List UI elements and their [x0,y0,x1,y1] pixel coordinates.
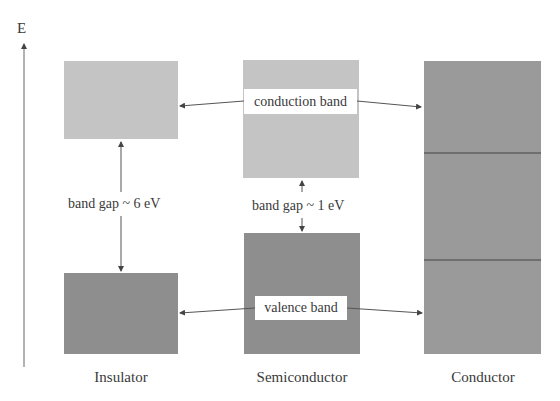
conductor-label: Conductor [413,369,553,386]
diagram-arrows [0,0,560,401]
semiconductor-label: Semiconductor [232,369,372,386]
insulator-label: Insulator [51,369,191,386]
